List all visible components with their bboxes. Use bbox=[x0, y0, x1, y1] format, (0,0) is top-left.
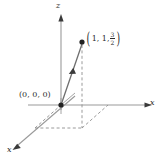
open-paren: ( bbox=[86, 30, 90, 47]
dashed-projection-lines bbox=[35, 45, 108, 128]
point-coordinate-label: ( 1, 1, 3 2 ) bbox=[85, 30, 122, 47]
y-axis bbox=[13, 96, 76, 150]
x-axis bbox=[28, 102, 152, 107]
endpoint-dot bbox=[79, 39, 84, 44]
coordinate-system-figure: z x x (0, 0, 0) ( 1, 1, 3 2 ) bbox=[0, 0, 161, 160]
point-fraction: 3 2 bbox=[110, 32, 115, 46]
z-axis-label: z bbox=[56, 2, 60, 10]
point-coords-text: 1, 1, bbox=[92, 35, 110, 43]
origin-dot bbox=[58, 102, 63, 107]
close-paren: ) bbox=[117, 30, 121, 47]
parallelogram-left-edge bbox=[35, 105, 61, 128]
origin-coordinate-label: (0, 0, 0) bbox=[19, 91, 51, 99]
y-axis-label: x bbox=[7, 146, 12, 154]
vector-arrowhead bbox=[68, 67, 76, 74]
z-axis bbox=[58, 14, 63, 110]
axes-and-vector-graphic bbox=[0, 0, 161, 160]
x-axis-label: x bbox=[150, 99, 155, 107]
parallelogram-right-edge bbox=[82, 105, 108, 128]
fraction-denominator: 2 bbox=[111, 39, 115, 46]
